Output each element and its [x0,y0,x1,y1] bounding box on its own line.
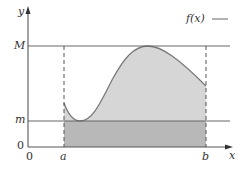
y-axis-arrow-icon [26,6,31,14]
diagram-graphics [0,0,240,173]
lower-level-label: m [15,114,25,125]
y-origin-label: 0 [17,140,24,151]
figure-caption-cropped [14,166,234,173]
area-under-curve [64,46,206,121]
upper-level-label: M [14,40,25,51]
y-axis-label: y [18,6,24,17]
interval-right-label: b [202,151,209,162]
x-origin-label: 0 [26,151,33,162]
mean-value-integral-diagram: y M m 0 0 a b x f(x) [0,0,240,173]
x-axis-label: x [229,150,235,161]
legend-label: f(x) [186,13,205,24]
interval-left-label: a [60,151,67,162]
rectangle-m-region [64,121,206,147]
